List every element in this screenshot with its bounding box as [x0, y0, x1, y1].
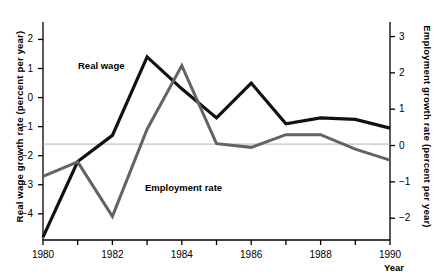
- y-tick-label-left: −1: [7, 121, 33, 132]
- chart-container: Real wage growth rate (percent per year)…: [0, 0, 436, 280]
- y-tick-label-right: −1: [399, 176, 425, 187]
- x-tick-label: 1988: [301, 249, 341, 260]
- series-line-employment-rate: [43, 66, 390, 217]
- y-tick-label-left: 1: [7, 63, 33, 74]
- y-tick-label-left: 2: [7, 33, 33, 44]
- x-tick-label: 1990: [370, 249, 410, 260]
- y-tick-label-right: 0: [399, 140, 425, 151]
- y-tick-label-left: 0: [7, 92, 33, 103]
- y-tick-label-left: −2: [7, 150, 33, 161]
- plot-area: [0, 0, 436, 280]
- x-tick-label: 1980: [23, 249, 63, 260]
- y-tick-label-right: 1: [399, 103, 425, 114]
- x-tick-label: 1986: [231, 249, 271, 260]
- x-tick-label: 1982: [92, 249, 132, 260]
- y-tick-label-right: 3: [399, 31, 425, 42]
- y-tick-label-right: 2: [399, 67, 425, 78]
- y-tick-label-left: −4: [7, 208, 33, 219]
- y-tick-label-left: −3: [7, 179, 33, 190]
- x-tick-label: 1984: [162, 249, 202, 260]
- y-tick-label-right: −2: [399, 212, 425, 223]
- series-line-real-wage: [43, 57, 390, 237]
